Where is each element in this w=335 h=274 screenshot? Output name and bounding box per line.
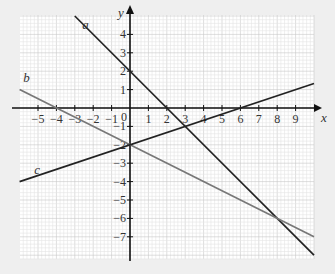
y-axis-label: y: [116, 5, 124, 20]
graph-figure: −5−4−3−2−11234567894321−1−2−3−4−5−6−70xy…: [0, 0, 335, 274]
x-tick-label: 8: [274, 112, 280, 126]
origin-label: 0: [121, 110, 127, 124]
coordinate-plot: −5−4−3−2−11234567894321−1−2−3−4−5−6−70xy…: [0, 0, 335, 274]
y-tick-label: −4: [113, 175, 126, 189]
line-label-c: c: [34, 162, 40, 177]
y-tick-label: −3: [113, 156, 126, 170]
y-tick-label: 3: [120, 46, 126, 60]
y-tick-label: 1: [120, 83, 126, 97]
x-tick-label: 2: [164, 112, 170, 126]
x-tick-label: −4: [50, 112, 63, 126]
y-tick-label: −5: [113, 193, 126, 207]
line-label-a: a: [82, 17, 89, 32]
y-tick-label: 4: [120, 27, 126, 41]
y-axis-arrow-icon: [126, 5, 134, 14]
line-label-b: b: [23, 70, 30, 85]
x-axis-label: x: [320, 110, 327, 125]
x-tick-label: −5: [32, 112, 45, 126]
y-tick-label: −7: [113, 230, 126, 244]
y-tick-label: −6: [113, 211, 126, 225]
x-tick-label: 7: [256, 112, 262, 126]
x-tick-label: 6: [237, 112, 243, 126]
x-tick-label: 9: [293, 112, 299, 126]
x-tick-label: 1: [145, 112, 151, 126]
